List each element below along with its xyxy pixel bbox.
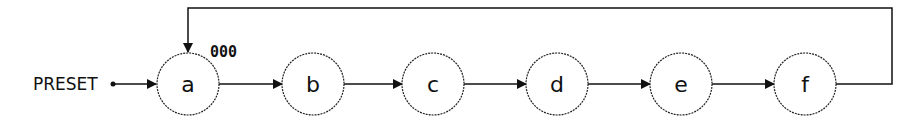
state-node-a: a	[157, 53, 219, 115]
node-label-d: d	[550, 72, 564, 97]
node-label-a: a	[181, 72, 194, 97]
state-code-label: 000	[210, 43, 237, 61]
node-label-b: b	[306, 72, 320, 97]
state-diagram: PRESET 000 a b c d e f	[0, 0, 923, 127]
state-node-e: e	[650, 53, 712, 115]
state-node-f: f	[774, 53, 836, 115]
state-node-c: c	[402, 53, 464, 115]
preset-label: PRESET	[33, 74, 98, 94]
state-node-d: d	[526, 53, 588, 115]
node-label-e: e	[674, 72, 688, 97]
state-node-b: b	[282, 53, 344, 115]
node-label-f: f	[801, 72, 810, 97]
node-label-c: c	[427, 72, 439, 97]
